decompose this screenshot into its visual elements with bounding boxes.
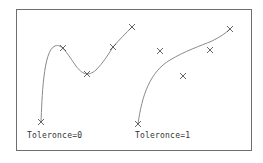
fit-point-x-icon (180, 73, 186, 79)
fit-point-x-icon (129, 24, 135, 30)
fit-point-x-icon (157, 48, 163, 54)
fit-point-x-icon (227, 26, 233, 32)
label-tolerance-1: Toleronce=1 (135, 131, 190, 140)
fit-point-x-icon (60, 45, 66, 51)
fit-point-markers (38, 24, 233, 127)
fit-point-x-icon (110, 44, 116, 50)
fit-point-x-icon (207, 47, 213, 53)
label-tolerance-0: Toleronce=0 (27, 131, 82, 140)
